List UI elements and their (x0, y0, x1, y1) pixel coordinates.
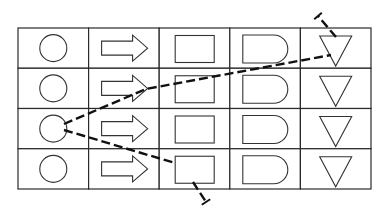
rectangle-icon (175, 116, 214, 143)
end-cap-icon (202, 199, 210, 204)
delay-d-shape-icon (243, 75, 288, 103)
circle-icon (40, 35, 67, 62)
rectangle-icon (175, 36, 214, 63)
delay-d-shape-icon (243, 156, 288, 184)
delay-d-shape-icon (243, 35, 288, 63)
circle-icon (40, 75, 67, 102)
end-cap-icon (314, 13, 322, 20)
circle-icon (40, 115, 67, 142)
rectangle-icon (175, 156, 214, 183)
symbol-grid-diagram (0, 0, 384, 211)
circle-icon (40, 155, 67, 182)
delay-d-shape-icon (243, 116, 288, 144)
